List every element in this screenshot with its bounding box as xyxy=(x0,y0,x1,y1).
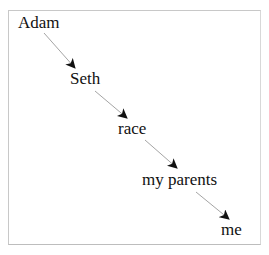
arrow-race-to-my-parents xyxy=(145,140,177,168)
node-my-parents: my parents xyxy=(142,171,217,188)
node-me: me xyxy=(221,221,242,238)
node-seth: Seth xyxy=(70,70,100,87)
node-adam: Adam xyxy=(18,14,60,31)
arrow-adam-to-seth xyxy=(44,33,75,68)
arrow-my-parents-to-me xyxy=(196,192,229,219)
arrow-seth-to-race xyxy=(95,91,127,118)
node-race: race xyxy=(118,120,146,137)
